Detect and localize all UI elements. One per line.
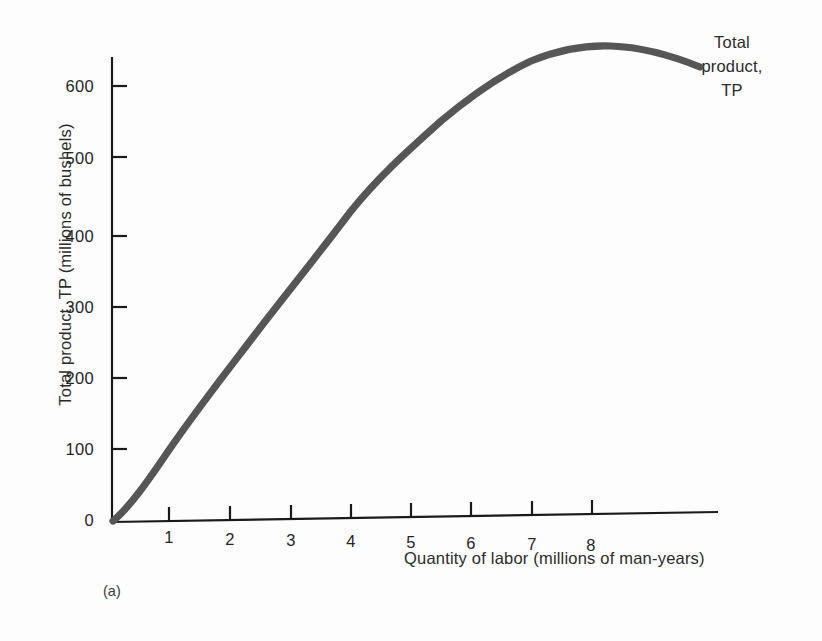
- plot-canvas: [0, 0, 822, 641]
- y-axis-ticks: [112, 86, 127, 449]
- total-product-figure: Total product, TP (millions of bushels) …: [0, 0, 822, 641]
- x-axis-line: [112, 512, 718, 522]
- total-product-curve: [113, 46, 700, 521]
